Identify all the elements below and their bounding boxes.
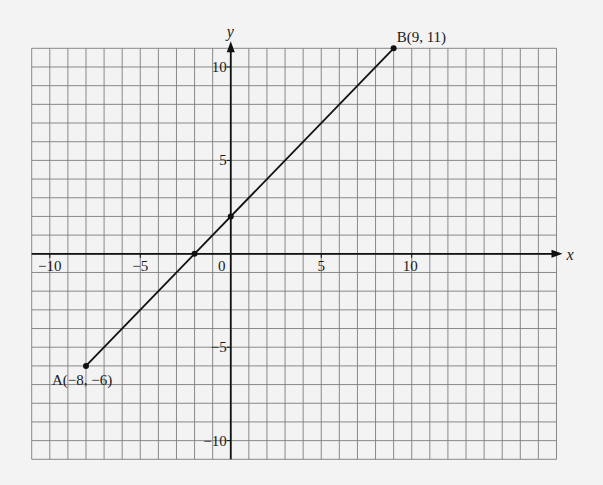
point-y-intercept (228, 213, 234, 219)
point-label-a: A(−8, −6) (52, 372, 112, 389)
point-label-b: B(9, 11) (397, 29, 446, 46)
x-tick-label: 0 (218, 258, 226, 274)
data-series (86, 48, 394, 366)
y-tick-label: −10 (203, 433, 226, 449)
point-x-intercept (192, 251, 198, 257)
y-tick-label: 10 (212, 59, 227, 75)
y-axis-arrow-icon (227, 41, 235, 52)
point-b (391, 45, 397, 51)
x-tick-label: 10 (403, 258, 418, 274)
y-tick-label: −5 (211, 339, 227, 355)
line-segment-ab (86, 48, 394, 366)
y-axis-label: y (225, 23, 235, 41)
x-tick-label: −10 (38, 258, 61, 274)
y-tick-label: 5 (219, 152, 227, 168)
point-a (83, 363, 89, 369)
x-axis-label: x (566, 246, 574, 263)
x-tick-label: 5 (317, 258, 325, 274)
coordinate-plane: −10−50510105−5−10 A(−8, −6)B(9, 11) x y (0, 0, 603, 485)
x-axis-arrow-icon (552, 250, 563, 258)
x-tick-label: −5 (132, 258, 148, 274)
